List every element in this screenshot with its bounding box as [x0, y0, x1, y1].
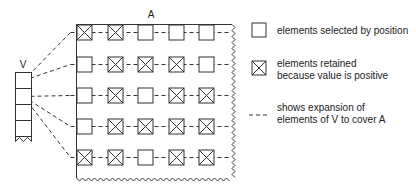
legend-item: elements selected by position	[252, 23, 408, 37]
selected-cell	[138, 88, 153, 103]
legend-text: elements of V to cover A	[277, 114, 386, 125]
retained-cell	[108, 88, 123, 103]
vector-cell	[16, 89, 32, 105]
cell-border	[252, 23, 266, 37]
cell-border	[199, 57, 214, 72]
retained-cell	[108, 119, 123, 134]
legend-text: shows expansion of	[277, 102, 365, 113]
selected-cell	[138, 150, 153, 165]
vector-cell	[16, 121, 32, 137]
selected-cell	[199, 25, 214, 40]
matrix-zigzag-right	[232, 25, 235, 178]
vector-cell	[16, 73, 32, 89]
cell-border	[77, 119, 92, 134]
legend-text: elements retained	[277, 58, 357, 69]
retained-cell	[108, 25, 123, 40]
selected-cell	[199, 57, 214, 72]
legend-item: elements retainedbecause value is positi…	[252, 58, 389, 81]
selected-cell	[77, 57, 92, 72]
cell-border	[77, 88, 92, 103]
matrix-zigzag-bottom	[77, 178, 230, 181]
vector-v	[16, 73, 32, 142]
cell-border	[138, 150, 153, 165]
cell-border	[138, 88, 153, 103]
matrix-label: A	[148, 9, 155, 20]
legend-text: elements selected by position	[277, 25, 408, 36]
retained-cell	[199, 88, 214, 103]
retained-cell	[77, 25, 92, 40]
retained-cell	[169, 150, 184, 165]
crossed-square-icon	[252, 61, 266, 75]
retained-cell	[199, 150, 214, 165]
selected-cell	[169, 25, 184, 40]
cell-border	[138, 25, 153, 40]
selected-cell	[77, 88, 92, 103]
vector-cell	[16, 105, 32, 121]
legend: elements selected by positionelements re…	[249, 23, 408, 125]
retained-cell	[199, 119, 214, 134]
cell-border	[169, 25, 184, 40]
expansion-links	[24, 33, 230, 158]
retained-cell	[169, 88, 184, 103]
selected-cell	[138, 25, 153, 40]
vector-zigzag	[16, 137, 32, 142]
selected-cell	[77, 119, 92, 134]
retained-cell	[108, 150, 123, 165]
cell-border	[199, 25, 214, 40]
retained-cell	[77, 150, 92, 165]
legend-text: because value is positive	[277, 70, 389, 81]
retained-cell	[138, 57, 153, 72]
retained-cell	[108, 57, 123, 72]
legend-item: shows expansion ofelements of V to cover…	[249, 102, 386, 125]
retained-cell	[169, 57, 184, 72]
cell-border	[77, 57, 92, 72]
retained-cell	[138, 119, 153, 134]
empty-square-icon	[252, 23, 266, 37]
vector-label: V	[20, 59, 27, 70]
retained-cell	[169, 119, 184, 134]
diagram-canvas: A V elements selected by positionelement…	[0, 0, 416, 192]
